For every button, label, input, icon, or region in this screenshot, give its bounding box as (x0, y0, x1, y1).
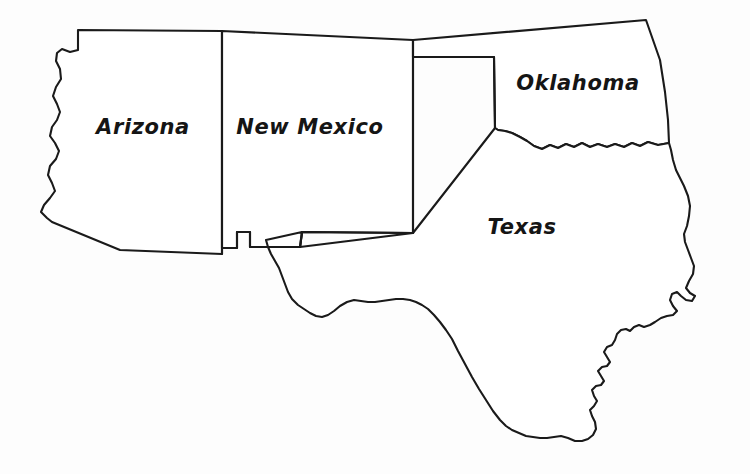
map-container: Arizona New Mexico Oklahoma Texas (0, 0, 750, 474)
state-shape-arizona[interactable] (41, 30, 222, 254)
southwestern-states-map: Arizona New Mexico Oklahoma Texas (0, 0, 750, 474)
state-label-new-mexico: New Mexico (236, 115, 383, 139)
state-label-arizona: Arizona (94, 115, 190, 139)
state-label-oklahoma: Oklahoma (516, 71, 639, 95)
state-shape-new-mexico[interactable] (222, 31, 413, 248)
state-label-texas: Texas (487, 215, 556, 239)
border-oklahoma-panhandle-south (413, 57, 495, 128)
